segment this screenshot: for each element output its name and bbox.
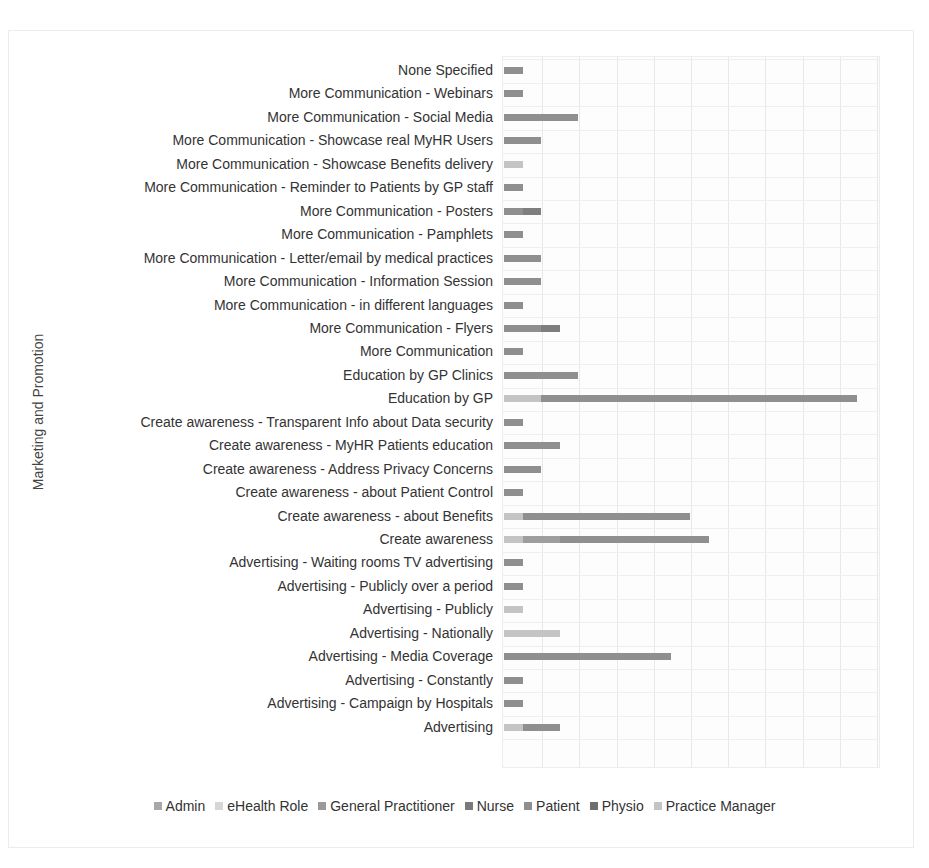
category-label: More Communication - Showcase Benefits d… [176,156,493,172]
bar-segment-patient[interactable] [504,559,523,566]
category-label: More Communication - Pamphlets [281,226,493,242]
category-label: Advertising - Campaign by Hospitals [267,695,493,711]
category-label: More Communication - Reminder to Patient… [144,179,493,195]
legend-item[interactable]: Patient [524,798,580,814]
bar-row [504,184,523,191]
bar-segment-patient[interactable] [504,208,523,215]
bar-segment-nurse[interactable] [523,208,542,215]
category-label: Advertising - Media Coverage [309,648,493,664]
gridline-horizontal [503,434,879,435]
gridline-horizontal [503,528,879,529]
legend: AdmineHealth RoleGeneral PractitionerNur… [0,798,929,814]
legend-item[interactable]: eHealth Role [215,798,308,814]
category-label: Create awareness - MyHR Patients educati… [209,437,493,453]
bar-row [504,630,560,637]
bar-segment-patient[interactable] [504,583,523,590]
bar-row [504,137,541,144]
bar-segment-patient[interactable] [504,302,523,309]
bar-segment-patient[interactable] [523,513,690,520]
legend-swatch-icon [154,802,162,810]
category-label: Advertising [424,719,493,735]
bar-segment-patient[interactable] [504,419,523,426]
bar-segment-patient[interactable] [504,231,523,238]
bar-row [504,255,541,262]
gridline-horizontal [503,552,879,553]
bar-segment-practice-manager[interactable] [504,161,523,168]
gridline-horizontal [503,364,879,365]
bar-row [504,583,523,590]
legend-label: Nurse [477,798,514,814]
bar-segment-patient[interactable] [504,442,560,449]
bar-segment-practice-manager[interactable] [504,630,560,637]
bar-segment-patient[interactable] [541,395,857,402]
gridline-horizontal [503,599,879,600]
bar-row [504,419,523,426]
bar-segment-practice-manager[interactable] [504,606,523,613]
bar-segment-practice-manager[interactable] [504,724,523,731]
legend-item[interactable]: Physio [590,798,644,814]
gridline-horizontal [503,247,879,248]
bar-row [504,67,523,74]
bar-segment-nurse[interactable] [541,325,560,332]
legend-item[interactable]: General Practitioner [318,798,455,814]
bar-row [504,114,578,121]
bar-segment-patient[interactable] [504,325,541,332]
category-label: More Communication - Flyers [309,320,493,336]
gridline-horizontal [503,622,879,623]
legend-label: Patient [536,798,580,814]
legend-item[interactable]: Practice Manager [654,798,776,814]
category-label: Advertising - Publicly [363,601,493,617]
category-label: Advertising - Publicly over a period [277,578,493,594]
plot-area [502,56,880,768]
bar-segment-patient[interactable] [504,184,523,191]
bar-row [504,161,523,168]
gridline-horizontal [503,716,879,717]
category-label: More Communication - Information Session [224,273,493,289]
category-label: More Communication - Letter/email by med… [144,250,493,266]
category-label: Create awareness - about Patient Control [235,484,493,500]
bar-segment-patient[interactable] [504,278,541,285]
gridline-horizontal [503,317,879,318]
gridline-horizontal [503,59,879,60]
gridline-horizontal [503,200,879,201]
category-label: Create awareness - Address Privacy Conce… [203,461,493,477]
bar-row [504,489,523,496]
bar-segment-patient[interactable] [504,677,523,684]
category-label: More Communication - Posters [300,203,493,219]
bar-row [504,231,523,238]
bar-segment-patient[interactable] [504,137,541,144]
gridline-horizontal [503,270,879,271]
bar-segment-patient[interactable] [504,90,523,97]
gridline-horizontal [503,341,879,342]
bar-segment-practice-manager[interactable] [504,395,541,402]
bar-segment-patient[interactable] [504,466,541,473]
gridline-horizontal [503,153,879,154]
gridline-horizontal [503,177,879,178]
legend-swatch-icon [590,802,598,810]
bar-segment-practice-manager[interactable] [504,513,523,520]
bar-segment-patient[interactable] [504,372,578,379]
bar-segment-patient[interactable] [504,489,523,496]
bar-segment-patient[interactable] [560,536,709,543]
bar-row [504,348,523,355]
gridline-horizontal [503,458,879,459]
legend-swatch-icon [654,802,662,810]
bar-segment-patient[interactable] [504,653,671,660]
bar-row [504,513,690,520]
bar-segment-patient[interactable] [504,255,541,262]
bar-segment-patient[interactable] [504,348,523,355]
bar-row [504,700,523,707]
bar-segment-patient[interactable] [504,700,523,707]
legend-item[interactable]: Admin [154,798,206,814]
bar-segment-patient[interactable] [523,724,560,731]
gridline-horizontal [503,739,879,740]
bar-segment-practice-manager[interactable] [504,536,523,543]
legend-label: Practice Manager [666,798,776,814]
legend-swatch-icon [524,802,532,810]
category-label: More Communication - Webinars [289,85,493,101]
legend-item[interactable]: Nurse [465,798,514,814]
bar-segment-physio[interactable] [523,536,560,543]
bar-segment-patient[interactable] [504,114,578,121]
bar-segment-patient[interactable] [504,67,523,74]
bar-row [504,395,857,402]
